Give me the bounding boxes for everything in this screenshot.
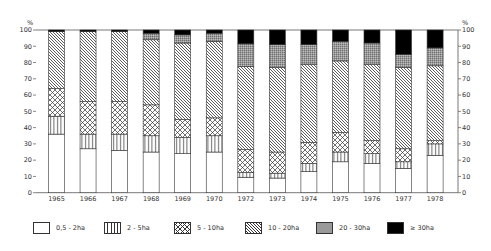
x-tick-label: 1966 xyxy=(80,195,97,203)
bar-segment-crosshatch xyxy=(80,102,96,135)
bar-segment-diagonal-lines xyxy=(364,64,380,140)
bar-segment-diagonal-lines xyxy=(49,32,65,89)
bar-1970 xyxy=(206,30,222,193)
bar-1978 xyxy=(427,30,443,193)
y-tick-label: 60 xyxy=(24,91,32,99)
bar-segment-crosshatch xyxy=(206,118,222,136)
bar-segment-diagonal-lines xyxy=(301,64,317,142)
bar-1967 xyxy=(112,30,128,193)
bar-1969 xyxy=(175,30,191,193)
y-ticks-left: 0102030405060708090100 xyxy=(20,26,36,197)
y-tick-label: 0 xyxy=(462,189,466,197)
legend-swatch-crosshatch xyxy=(174,222,191,234)
bar-segment-vertical-lines xyxy=(175,137,191,153)
bar-segment-solid-black xyxy=(143,30,159,33)
bars xyxy=(49,30,444,193)
bar-segment-blank xyxy=(238,177,254,192)
bar-segment-diagonal-lines xyxy=(80,32,96,102)
bar-segment-blank xyxy=(206,152,222,193)
legend-swatch-solid-black xyxy=(387,222,404,234)
bar-segment-crosshatch xyxy=(175,119,191,137)
legend-item-10-20ha: 10 - 20ha xyxy=(245,220,299,236)
bar-segment-diagonal-lines xyxy=(332,61,348,133)
bar-1965 xyxy=(49,30,65,193)
bar-segment-diagonal-lines xyxy=(396,67,412,148)
y-tick-label: 80 xyxy=(462,59,470,67)
bar-segment-diagonal-lines xyxy=(238,67,254,150)
bar-segment-diagonal-lines xyxy=(269,67,285,152)
bar-segment-blank xyxy=(269,178,285,193)
bar-segment-crosshatch xyxy=(143,105,159,136)
bar-segment-vertical-lines xyxy=(364,154,380,164)
x-tick-label: 1970 xyxy=(206,195,223,203)
bar-segment-crosshatch xyxy=(49,89,65,117)
bar-segment-crosshatch xyxy=(269,152,285,173)
y-tick-label: 10 xyxy=(24,173,32,181)
legend-swatch-grey-stipple xyxy=(316,222,333,234)
bar-segment-solid-black xyxy=(206,30,222,33)
bar-segment-grey-stipple xyxy=(301,45,317,65)
legend-item-30ha-plus: ≥ 30ha xyxy=(387,220,434,236)
legend-swatch-vertical-lines xyxy=(104,222,121,234)
bar-segment-grey-stipple xyxy=(332,41,348,61)
bar-segment-grey-stipple xyxy=(143,33,159,40)
bar-1968 xyxy=(143,30,159,193)
bar-segment-vertical-lines xyxy=(427,144,443,155)
x-tick-label: 1973 xyxy=(269,195,286,203)
bar-segment-vertical-lines xyxy=(143,136,159,152)
x-tick-label: 1974 xyxy=(301,195,318,203)
y-tick-label: 30 xyxy=(24,140,32,148)
x-tick-label: 1977 xyxy=(395,195,412,203)
y-tick-label: 90 xyxy=(462,43,470,51)
bar-1974 xyxy=(301,30,317,193)
bar-segment-diagonal-lines xyxy=(112,32,128,102)
bar-segment-crosshatch xyxy=(238,150,254,173)
legend-swatch-diagonal-lines xyxy=(245,222,262,234)
y-tick-label: 50 xyxy=(462,108,470,116)
y-tick-label: 70 xyxy=(24,75,32,83)
bar-segment-vertical-lines xyxy=(269,173,285,178)
bar-segment-crosshatch xyxy=(427,141,443,144)
bar-1973 xyxy=(269,30,285,193)
bar-segment-blank xyxy=(396,168,412,192)
y-tick-label: 40 xyxy=(24,124,32,132)
bar-segment-blank xyxy=(301,172,317,193)
bar-segment-solid-black xyxy=(269,30,285,45)
bar-segment-blank xyxy=(49,134,65,193)
bar-segment-blank xyxy=(175,154,191,193)
bar-segment-grey-stipple xyxy=(364,43,380,64)
bar-segment-vertical-lines xyxy=(80,134,96,149)
bar-segment-crosshatch xyxy=(301,142,317,163)
bar-segment-solid-black xyxy=(332,30,348,41)
bar-segment-blank xyxy=(112,150,128,192)
x-tick-label: 1965 xyxy=(48,195,65,203)
bar-segment-solid-black xyxy=(238,30,254,44)
legend-label: 20 - 30ha xyxy=(339,224,370,232)
legend-item-5-10ha: 5 - 10ha xyxy=(174,220,224,236)
x-tick-labels: 1965196619671968196919701972197319741975… xyxy=(48,195,443,203)
y-tick-label: 100 xyxy=(462,26,474,34)
x-tick-label: 1972 xyxy=(238,195,255,203)
bar-segment-blank xyxy=(332,162,348,193)
bar-segment-vertical-lines xyxy=(301,163,317,171)
y-tick-label: 30 xyxy=(462,140,470,148)
legend-label: 10 - 20ha xyxy=(268,224,299,232)
legend-item-2-5ha: 2 - 5ha xyxy=(104,220,150,236)
x-tick-label: 1967 xyxy=(111,195,128,203)
bar-1977 xyxy=(396,30,412,193)
y-ticks-right: 0102030405060708090100 xyxy=(458,26,474,197)
bar-1966 xyxy=(80,30,96,193)
bar-1972 xyxy=(238,30,254,193)
bar-segment-vertical-lines xyxy=(206,136,222,152)
legend-item-0-5-2ha: 0,5 - 2ha xyxy=(33,220,85,236)
bar-segment-blank xyxy=(80,149,96,193)
bar-segment-grey-stipple xyxy=(427,48,443,66)
x-tick-label: 1978 xyxy=(427,195,444,203)
bar-segment-crosshatch xyxy=(364,141,380,154)
y-tick-label: 10 xyxy=(462,173,470,181)
legend: 0,5 - 2ha 2 - 5ha 5 - 10ha 10 - 20ha 20 … xyxy=(0,220,491,236)
y-tick-label: 90 xyxy=(24,43,32,51)
bar-segment-solid-black xyxy=(364,30,380,43)
bar-segment-solid-black xyxy=(49,30,65,32)
bar-segment-grey-stipple xyxy=(175,35,191,43)
